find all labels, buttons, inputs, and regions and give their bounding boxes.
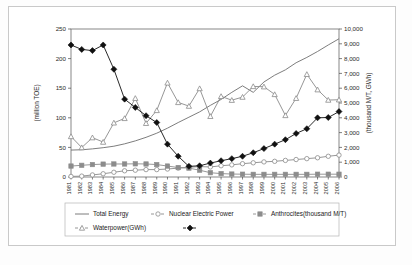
data-point-circle-open (251, 161, 255, 165)
x-axis-tick-label: 2006 (334, 182, 340, 194)
series-path (71, 155, 339, 176)
series-anthrocites-thousand-m-t (69, 162, 341, 177)
x-axis-tick-label: 1990 (162, 182, 168, 194)
data-point-square-filled (305, 172, 309, 176)
data-point-circle-open (305, 156, 309, 160)
data-point-square-filled (112, 162, 116, 166)
data-point-triangle-open (68, 134, 73, 139)
chart-frame: 05010015020025001,0002,0003,0004,0005,00… (8, 6, 396, 246)
x-axis-tick-label: 2001 (280, 182, 286, 194)
legend-label: Waterpower(GWh) (93, 224, 146, 232)
legend-marker-square-filled (258, 212, 262, 216)
data-point-triangle-open (197, 86, 202, 91)
data-point-square-filled (101, 162, 105, 166)
x-axis-tick-label: 1989 (152, 182, 158, 194)
data-point-circle-open (144, 167, 148, 171)
data-point-square-filled (208, 171, 212, 175)
data-point-triangle-open (272, 92, 277, 97)
data-point-circle-open (101, 172, 105, 176)
data-point-circle-open (230, 163, 234, 167)
data-point-square-filled (144, 162, 148, 166)
data-point-circle-open (294, 157, 298, 161)
data-point-circle-open (155, 167, 159, 171)
data-point-square-filled (90, 162, 94, 166)
data-point-triangle-open (154, 108, 159, 113)
data-point-diamond-filled (218, 158, 224, 164)
data-point-circle-open (112, 170, 116, 174)
data-point-diamond-filled (229, 156, 235, 162)
legend-label: Nuclear Electric Power (169, 210, 235, 217)
data-point-square-filled (251, 172, 255, 176)
chart-legend: Total EnergyNuclear Electric PowerAnthro… (65, 203, 346, 236)
data-point-square-filled (272, 172, 276, 176)
x-axis-tick-label: 2000 (270, 182, 276, 194)
data-point-square-filled (165, 164, 169, 168)
x-axis-tick-label: 1988 (141, 182, 147, 194)
data-point-circle-open (240, 161, 244, 165)
y2-axis-tick-label: 3,000 (344, 129, 360, 136)
data-point-square-filled (176, 165, 180, 169)
data-point-circle-open (90, 173, 94, 177)
data-point-circle-open (122, 169, 126, 173)
y-axis-tick-label: 150 (56, 84, 67, 91)
y2-axis-tick-label: 8,000 (344, 55, 360, 62)
y2-axis-tick-label: 2,000 (344, 144, 360, 151)
x-axis-tick-label: 1984 (98, 182, 104, 194)
data-point-square-filled (240, 172, 244, 176)
data-point-square-filled (122, 162, 126, 166)
legend-marker-circle-open (156, 212, 160, 216)
data-point-circle-open (326, 154, 330, 158)
y2-axis-tick-label: 5,000 (344, 99, 360, 106)
data-point-square-filled (337, 172, 341, 176)
data-point-triangle-open (208, 114, 213, 119)
y2-axis-tick-label: 9,000 (344, 40, 360, 47)
data-point-circle-open (315, 156, 319, 160)
series-path (71, 74, 339, 147)
legend-label: Total Energy (93, 210, 129, 218)
x-axis-tick-label: 1981 (66, 182, 72, 194)
data-point-diamond-filled (68, 42, 74, 48)
x-axis-tick-label: 2005 (323, 182, 329, 194)
data-point-circle-open (80, 174, 84, 178)
data-point-diamond-filled (100, 42, 106, 48)
y-axis-tick-label: 250 (56, 25, 67, 32)
data-point-triangle-open (133, 96, 138, 101)
data-point-diamond-filled (111, 66, 117, 72)
x-axis-tick-label: 1985 (109, 182, 115, 194)
data-point-circle-open (133, 168, 137, 172)
x-axis-tick-label: 1983 (87, 182, 93, 194)
y2-axis-tick-label: 7,000 (344, 70, 360, 77)
data-point-square-filled (283, 172, 287, 176)
x-axis-tick-label: 1991 (173, 182, 179, 194)
y2-axis-tick-label: 4,000 (344, 114, 360, 121)
data-point-diamond-filled (154, 120, 160, 126)
data-point-square-filled (219, 171, 223, 175)
data-point-diamond-filled (240, 153, 246, 159)
x-axis-tick-label: 1994 (205, 182, 211, 194)
y2-axis-title: (thousand M/T, GWh) (365, 73, 373, 134)
series-unnamed-4 (68, 42, 342, 169)
data-point-triangle-open (101, 139, 106, 144)
data-point-diamond-filled (250, 150, 256, 156)
data-point-triangle-open (111, 120, 116, 125)
data-point-circle-open (69, 174, 73, 178)
data-point-square-filled (315, 172, 319, 176)
data-point-square-filled (80, 163, 84, 167)
x-axis-tick-label: 1992 (184, 182, 190, 194)
x-axis-tick-label: 1986 (120, 182, 126, 194)
data-point-diamond-filled (261, 146, 267, 152)
x-axis-tick-label: 1993 (195, 182, 201, 194)
x-axis-tick-label: 2002 (291, 182, 297, 194)
data-point-diamond-filled (207, 160, 213, 166)
data-point-triangle-open (294, 96, 299, 101)
data-point-square-filled (230, 172, 234, 176)
series-path (71, 45, 339, 166)
data-point-diamond-filled (336, 109, 342, 115)
data-point-square-filled (69, 164, 73, 168)
data-point-diamond-filled (89, 48, 95, 54)
y-axis-tick-label: 100 (56, 114, 67, 121)
data-point-circle-open (272, 159, 276, 163)
data-point-circle-open (219, 164, 223, 168)
data-point-square-filled (133, 162, 137, 166)
data-point-triangle-open (165, 80, 170, 85)
